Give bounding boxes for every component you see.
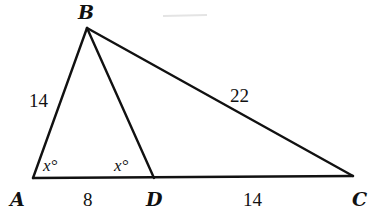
angle-label-d: x° — [113, 156, 129, 175]
side-label-ad: 8 — [83, 189, 93, 210]
scan-artifact — [163, 15, 207, 16]
side-label-dc: 14 — [243, 189, 263, 210]
vertex-label-a: A — [8, 188, 25, 210]
vertex-label-c: C — [352, 188, 367, 210]
segment-ac — [33, 176, 353, 178]
side-label-bc: 22 — [230, 85, 249, 106]
side-label-ab: 14 — [29, 90, 49, 111]
angle-label-a: x° — [42, 156, 58, 175]
vertex-label-b: B — [77, 1, 94, 23]
vertex-label-d: D — [145, 188, 163, 210]
triangle-diagram: B A D C 14 22 8 14 x° x° — [0, 0, 381, 219]
segment-bc — [87, 28, 353, 176]
